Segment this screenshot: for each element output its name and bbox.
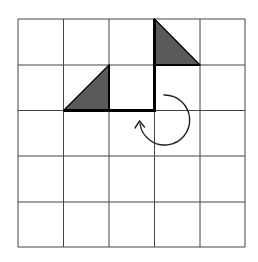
triangle-top-right: [155, 19, 201, 65]
grid-diagram: [0, 0, 258, 262]
rotation-arrow-icon: [135, 95, 190, 145]
triangle-left: [64, 65, 110, 111]
grid-lines: [18, 19, 245, 247]
